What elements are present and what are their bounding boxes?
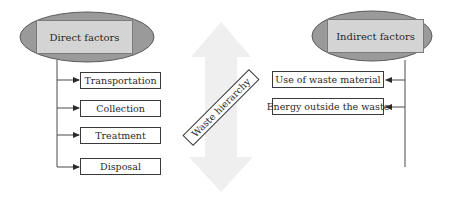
direct-factor-disposal: Disposal (80, 158, 161, 175)
indirect-factor-use-of-waste-material: Use of waste material (272, 71, 384, 88)
direct-factor-transportation: Transportation (80, 72, 161, 89)
indirect-factor-energy-outside-waste: Energy outside the waste (272, 98, 384, 115)
direct-factor-collection: Collection (80, 100, 161, 117)
waste-factors-diagram: Direct factors Indirect factors Transpor… (0, 0, 458, 197)
direct-factors-header: Direct factors (36, 20, 133, 54)
indirect-factors-header: Indirect factors (327, 19, 424, 53)
direct-factor-treatment: Treatment (80, 127, 161, 144)
